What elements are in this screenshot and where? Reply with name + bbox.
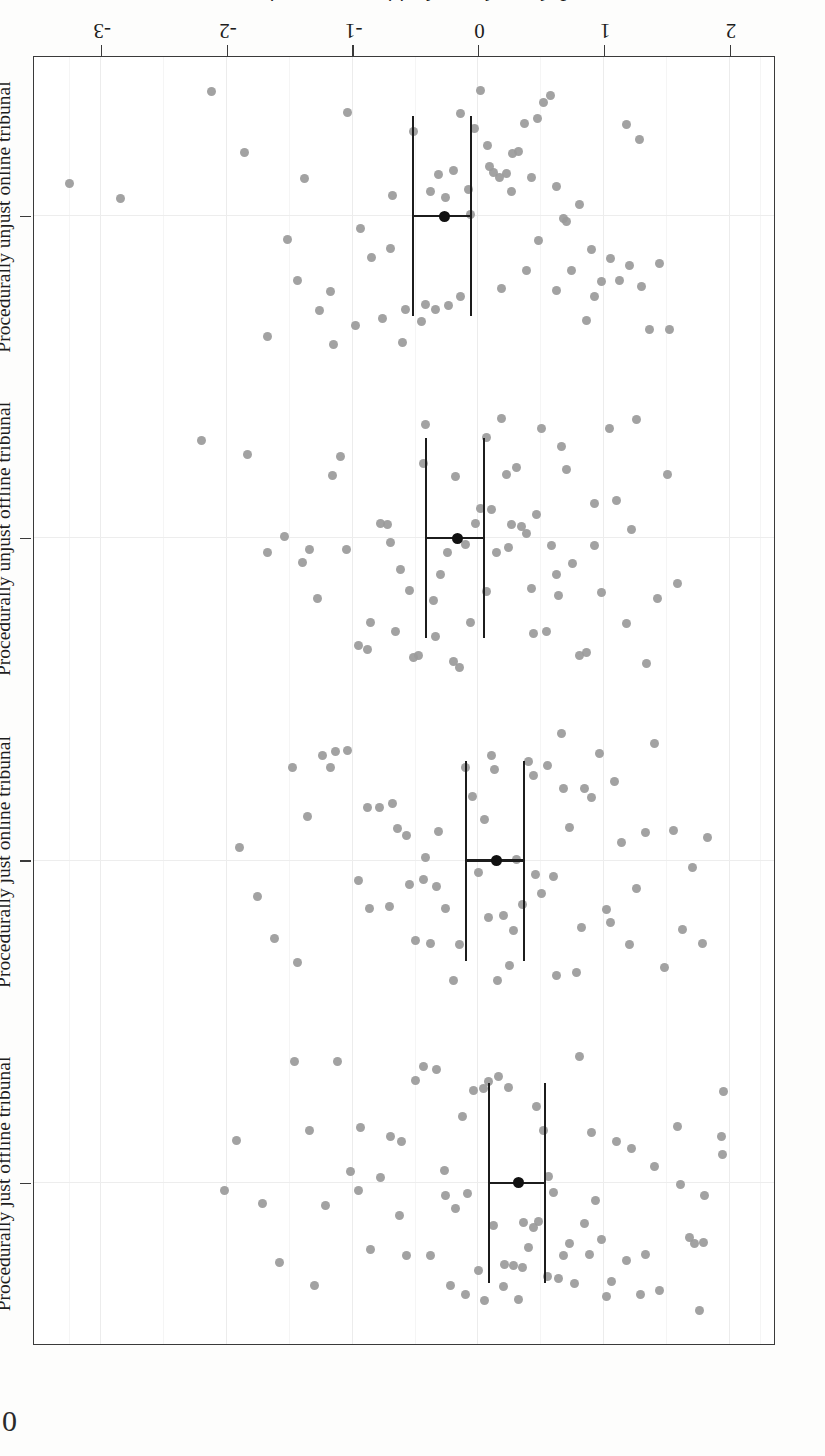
data-point bbox=[310, 1281, 319, 1290]
data-point bbox=[383, 520, 392, 529]
data-point bbox=[597, 588, 606, 597]
data-point bbox=[590, 499, 599, 508]
data-point bbox=[411, 1077, 420, 1086]
value-axis-title: Judge and court legitimacy perceptions bbox=[33, 0, 775, 5]
data-point bbox=[441, 904, 450, 913]
gridline-horizontal bbox=[34, 537, 774, 538]
data-point bbox=[537, 424, 546, 433]
data-point bbox=[386, 1132, 395, 1141]
data-point bbox=[504, 1083, 513, 1092]
data-point bbox=[517, 522, 526, 531]
plot-panel bbox=[33, 56, 775, 1345]
scan-artifact-glyph: 0 bbox=[2, 1404, 17, 1438]
data-point bbox=[305, 545, 314, 554]
mean-marker bbox=[491, 855, 502, 866]
data-point bbox=[554, 1274, 563, 1283]
data-point bbox=[612, 1137, 621, 1146]
data-point bbox=[650, 1162, 659, 1171]
data-point bbox=[622, 619, 631, 628]
data-point bbox=[366, 618, 375, 627]
data-point bbox=[559, 784, 568, 793]
data-point bbox=[432, 882, 441, 891]
category-tick bbox=[20, 1183, 31, 1184]
data-point bbox=[331, 747, 340, 756]
data-point bbox=[356, 1123, 365, 1132]
data-point bbox=[421, 300, 430, 309]
axis-tick-label: -2 bbox=[219, 18, 237, 43]
data-point bbox=[456, 109, 465, 118]
data-point bbox=[625, 261, 634, 270]
data-point bbox=[280, 532, 289, 541]
data-point bbox=[385, 902, 394, 911]
data-point bbox=[429, 596, 438, 605]
gridline-horizontal bbox=[34, 1182, 774, 1183]
data-point bbox=[514, 1295, 523, 1304]
data-point bbox=[597, 277, 606, 286]
data-point bbox=[321, 1201, 330, 1210]
data-point bbox=[466, 618, 475, 627]
category-axis: Procedurally just offline tribunalProced… bbox=[0, 56, 31, 1345]
data-point bbox=[426, 187, 435, 196]
data-point bbox=[468, 792, 477, 801]
data-point bbox=[240, 148, 249, 157]
data-point bbox=[615, 276, 624, 285]
data-point bbox=[116, 195, 125, 204]
data-point bbox=[637, 282, 646, 291]
data-point bbox=[700, 1191, 709, 1200]
data-point bbox=[567, 266, 576, 275]
data-point bbox=[388, 799, 397, 808]
category-label: Procedurally unjust online tribunal bbox=[0, 81, 15, 352]
data-point bbox=[298, 558, 307, 567]
data-point bbox=[487, 505, 496, 514]
data-point bbox=[258, 1200, 267, 1209]
data-point bbox=[537, 889, 546, 898]
data-point bbox=[444, 301, 453, 310]
data-point bbox=[329, 340, 338, 349]
data-point bbox=[505, 961, 514, 970]
data-point bbox=[494, 1072, 503, 1081]
data-point bbox=[552, 570, 561, 579]
data-point bbox=[597, 1235, 606, 1244]
data-point bbox=[719, 1087, 728, 1096]
data-point bbox=[461, 540, 470, 549]
value-axis: 210-1-2-3 bbox=[33, 0, 775, 56]
data-point bbox=[378, 314, 387, 323]
error-bar-cap bbox=[470, 116, 472, 316]
data-point bbox=[426, 1251, 435, 1260]
data-point bbox=[492, 548, 501, 557]
gridline-horizontal bbox=[34, 860, 774, 861]
data-point bbox=[434, 827, 443, 836]
data-point bbox=[483, 141, 492, 150]
data-point bbox=[351, 321, 360, 330]
data-point bbox=[509, 1261, 518, 1270]
axis-tick bbox=[227, 45, 228, 56]
data-point bbox=[617, 839, 626, 848]
data-point bbox=[606, 254, 615, 263]
data-point bbox=[490, 765, 499, 774]
gridline-vertical-minor bbox=[69, 57, 70, 1344]
data-point bbox=[411, 936, 420, 945]
data-point bbox=[500, 1260, 509, 1269]
data-point bbox=[365, 904, 374, 913]
data-point bbox=[388, 191, 397, 200]
axis-tick-label: 1 bbox=[600, 18, 611, 43]
data-point bbox=[549, 1188, 558, 1197]
error-bar-cap bbox=[544, 1083, 546, 1283]
data-point bbox=[405, 880, 414, 889]
gridline-vertical-minor bbox=[289, 57, 290, 1344]
data-point bbox=[288, 763, 297, 772]
data-point bbox=[518, 1263, 527, 1272]
data-point bbox=[532, 510, 541, 519]
data-point bbox=[632, 884, 641, 893]
data-point bbox=[529, 771, 538, 780]
axis-tick bbox=[478, 45, 479, 56]
data-point bbox=[480, 1296, 489, 1305]
data-point bbox=[554, 591, 563, 600]
figure-page: Procedurally just offline tribunalProced… bbox=[0, 0, 825, 1456]
data-point bbox=[622, 120, 631, 129]
data-point bbox=[641, 828, 650, 837]
rotated-figure-container: Procedurally just offline tribunalProced… bbox=[0, 0, 825, 1456]
data-point bbox=[595, 749, 604, 758]
data-point bbox=[552, 182, 561, 191]
data-point bbox=[546, 91, 555, 100]
